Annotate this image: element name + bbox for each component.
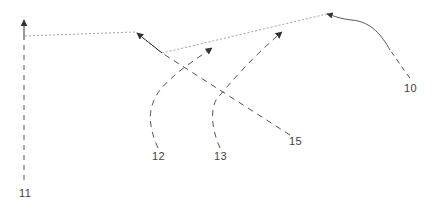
dotted-connection-line: [25, 14, 327, 53]
reference-numeral-12: 12: [152, 150, 165, 162]
arrow-12: [150, 48, 212, 148]
reference-numeral-15: 15: [289, 135, 302, 147]
arrow-10: [327, 14, 410, 78]
reference-numeral-10: 10: [404, 82, 417, 94]
diagram-canvas: [0, 0, 434, 209]
reference-numeral-13: 13: [214, 150, 227, 162]
arrow-13: [213, 32, 282, 148]
reference-numeral-11: 11: [19, 187, 31, 199]
arrow-15: [137, 33, 290, 135]
